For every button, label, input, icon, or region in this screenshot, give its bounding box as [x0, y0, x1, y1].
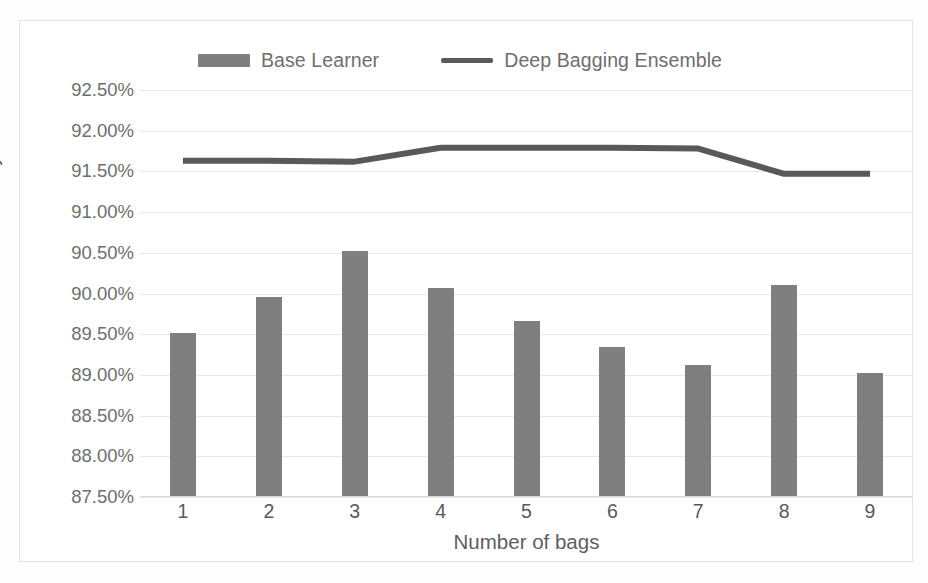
y-axis-tick-label: 89.50% — [38, 323, 134, 345]
y-axis-tick-label: 89.00% — [38, 364, 134, 386]
y-axis-tick-label: 92.50% — [38, 79, 134, 101]
y-axis-tick-label: 90.00% — [38, 283, 134, 305]
y-axis-tick-label: 91.50% — [38, 160, 134, 182]
y-axis-tick-label: 92.00% — [38, 120, 134, 142]
x-axis-tick-label: 2 — [263, 500, 274, 523]
gridline — [140, 497, 913, 498]
y-axis-tick-labels: 92.50%92.00%91.50%91.00%90.50%90.00%89.5… — [38, 90, 134, 497]
y-axis-tick-label: 88.50% — [38, 405, 134, 427]
line-path — [183, 148, 870, 174]
chart-root: Base Learner Deep Bagging Ensemble Accur… — [0, 0, 928, 583]
x-axis-tick-label: 5 — [521, 500, 532, 523]
legend-label-deep-bagging-ensemble: Deep Bagging Ensemble — [504, 49, 722, 72]
x-axis-tick-label: 6 — [607, 500, 618, 523]
plot-area — [140, 90, 913, 497]
x-axis-tick-label: 1 — [178, 500, 189, 523]
x-axis-tick-label: 8 — [779, 500, 790, 523]
x-axis-line — [140, 496, 913, 497]
x-axis-title: Number of bags — [140, 530, 913, 554]
y-axis-title: Accuracy — [0, 156, 3, 238]
x-axis-tick-label: 9 — [865, 500, 876, 523]
bar-swatch-icon — [198, 54, 250, 67]
y-axis-tick-label: 87.50% — [38, 486, 134, 508]
line-swatch-icon — [441, 58, 493, 63]
x-axis-tick-label: 3 — [349, 500, 360, 523]
legend-label-base-learner: Base Learner — [261, 49, 379, 72]
y-axis-tick-label: 90.50% — [38, 242, 134, 264]
x-axis-tick-label: 7 — [693, 500, 704, 523]
legend-item-deep-bagging-ensemble: Deep Bagging Ensemble — [441, 49, 722, 72]
line-series-deep-bagging-ensemble — [140, 90, 913, 497]
x-axis-tick-labels: 123456789 — [140, 500, 913, 530]
y-axis-tick-label: 91.00% — [38, 201, 134, 223]
chart-legend: Base Learner Deep Bagging Ensemble — [140, 47, 780, 73]
x-axis-tick-label: 4 — [435, 500, 446, 523]
y-axis-tick-label: 88.00% — [38, 445, 134, 467]
legend-item-base-learner: Base Learner — [198, 49, 379, 72]
